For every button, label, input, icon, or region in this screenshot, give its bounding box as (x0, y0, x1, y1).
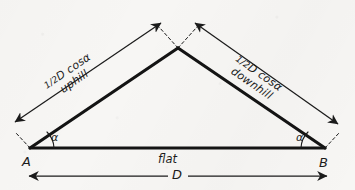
angle-label-b: α (296, 131, 303, 144)
vertex-a-extension-guide (16, 133, 30, 148)
vertex-label-a: A (22, 154, 31, 169)
hill-triangle-figure: 1/2D cosα uphill 1/2D cosα downhill A B … (0, 0, 355, 190)
apex-right-extension-guide (178, 27, 197, 48)
angle-label-a: α (51, 131, 58, 144)
base-label-flat: flat (158, 152, 177, 166)
apex-left-extension-guide (159, 27, 178, 48)
vertex-b-extension-guide (325, 133, 339, 148)
vertex-label-b: B (319, 155, 328, 170)
base-dimension-label: D (172, 167, 182, 182)
